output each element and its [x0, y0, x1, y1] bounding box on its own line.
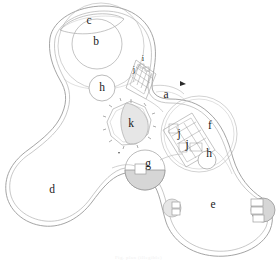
- label-k: k: [128, 117, 134, 129]
- e-right-feature-rect2: [251, 207, 263, 214]
- label-j-annex: j: [132, 64, 135, 74]
- e-left-feature-rect2: [172, 209, 180, 215]
- label-b: b: [93, 35, 99, 47]
- label-e: e: [210, 198, 215, 210]
- label-d: d: [49, 183, 55, 195]
- plan-drawing: a b c d e f g h h i j j j k: [0, 0, 277, 261]
- e-left-feature-rect1: [172, 202, 180, 208]
- e-right-feature-rect1: [251, 199, 263, 206]
- label-j-east-2: j: [184, 138, 188, 151]
- label-f: f: [208, 119, 212, 131]
- label-h-east: h: [206, 147, 212, 159]
- label-g: g: [145, 157, 151, 170]
- label-c: c: [86, 14, 91, 26]
- site-plan-figure: a b c d e f g h h i j j j k Fig. plan (i…: [0, 0, 277, 261]
- label-j-east-1: j: [176, 127, 180, 140]
- label-a: a: [163, 88, 168, 100]
- figure-caption: Fig. plan (illegible): [0, 255, 277, 260]
- e-right-feature-rect3: [253, 215, 264, 222]
- label-h-northwest: h: [99, 81, 105, 93]
